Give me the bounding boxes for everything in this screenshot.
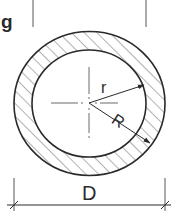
tube-section-diagram: g r R D [0, 0, 172, 216]
inner-radius-label: r [101, 79, 107, 96]
diameter-label: D [82, 182, 96, 204]
